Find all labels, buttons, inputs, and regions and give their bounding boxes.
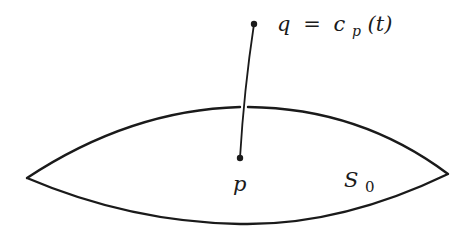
curve-argument: (t) [368, 12, 393, 36]
point-p [237, 155, 243, 161]
surface-s0-outline [27, 107, 448, 224]
surface-subscript: 0 [365, 178, 375, 196]
label-p: p [233, 172, 246, 196]
label-q-equation: q = c p (t) [277, 12, 392, 41]
point-q [251, 21, 257, 27]
curve-subscript: p [352, 23, 361, 39]
diagram-canvas: q = c p (t) p S 0 [0, 0, 463, 236]
surface-letter: S [344, 168, 358, 192]
equals-sign: = [303, 12, 321, 36]
label-s0: S 0 [344, 168, 375, 196]
curve-cp [240, 24, 254, 158]
curve-name: c [333, 12, 345, 36]
label-q: q [277, 12, 290, 36]
